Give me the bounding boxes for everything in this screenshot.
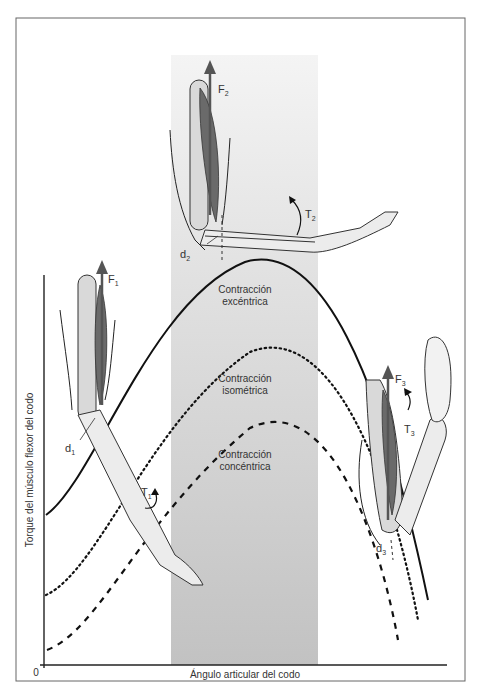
origin-label: 0	[33, 667, 39, 678]
torque-angle-diagram: Contracción excéntrica Contracción isomé…	[0, 0, 480, 693]
concentric-label-line1: Contracción	[218, 449, 271, 460]
eccentric-label-line1: Contracción	[218, 284, 271, 295]
x-axis-label: Ángulo articular del codo	[190, 668, 301, 680]
y-axis-label: Torque del músculo flexor del codo	[24, 392, 35, 547]
eccentric-label-line2: excéntrica	[222, 296, 268, 307]
isometric-label-line1: Contracción	[218, 373, 271, 384]
concentric-label-line2: concéntrica	[219, 461, 271, 472]
isometric-label-line2: isométrica	[222, 385, 268, 396]
